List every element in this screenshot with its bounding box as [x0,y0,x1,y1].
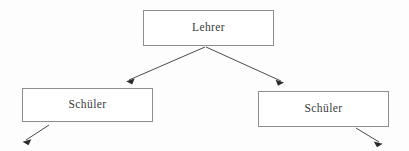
diagram-canvas: Lehrer Schüler Schüler [0,0,409,151]
edge-lehrer-to-schueler-left [126,47,205,84]
node-lehrer[interactable]: Lehrer [143,10,274,46]
node-schueler-left-label: Schüler [69,99,107,111]
edge-lehrer-to-schueler-right [206,47,284,86]
node-schueler-right[interactable]: Schüler [258,91,389,127]
node-schueler-right-label: Schüler [305,103,343,115]
edge-schueler-right-descendant [356,128,383,147]
node-lehrer-label: Lehrer [192,22,225,34]
edge-schueler-left-descendant [23,125,49,145]
node-schueler-left[interactable]: Schüler [22,88,153,122]
